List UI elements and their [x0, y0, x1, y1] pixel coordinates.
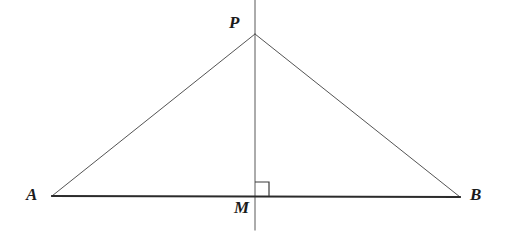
vertex-label-a: A	[26, 186, 37, 203]
right-angle-icon	[255, 182, 269, 196]
segment-pb	[255, 34, 460, 197]
vertex-label-b: B	[470, 186, 481, 203]
segment-ab	[52, 196, 460, 197]
geometry-canvas	[0, 0, 508, 242]
segment-ap	[52, 34, 255, 196]
vertex-label-p: P	[229, 14, 239, 31]
vertex-label-m: M	[234, 199, 249, 216]
geometry-figure: A B P M	[0, 0, 508, 242]
